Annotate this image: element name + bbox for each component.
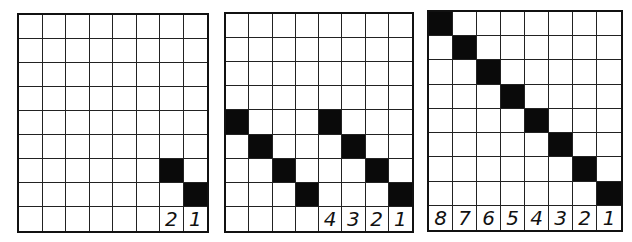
empty-cell xyxy=(573,182,597,206)
empty-cell xyxy=(389,62,412,86)
grid-panel-3: 87654321 xyxy=(427,10,623,232)
empty-cell xyxy=(43,159,67,183)
empty-cell xyxy=(296,135,319,159)
empty-cell xyxy=(273,86,296,110)
empty-cell xyxy=(366,62,389,86)
empty-cell xyxy=(113,15,137,39)
empty-cell xyxy=(501,36,525,60)
empty-cell xyxy=(429,157,453,181)
empty-cell xyxy=(501,157,525,181)
empty-cell xyxy=(226,38,249,62)
empty-cell xyxy=(90,15,114,39)
empty-cell xyxy=(226,86,249,110)
empty-cell xyxy=(525,157,549,181)
empty-cell xyxy=(319,62,342,86)
empty-cell xyxy=(597,157,621,181)
empty-cell xyxy=(453,157,477,181)
empty-cell xyxy=(160,15,184,39)
empty-cell xyxy=(429,182,453,206)
empty-cell xyxy=(597,60,621,84)
empty-cell xyxy=(342,38,365,62)
empty-cell xyxy=(137,39,161,63)
filled-cell xyxy=(342,135,365,159)
column-label: 6 xyxy=(477,206,501,230)
empty-cell xyxy=(113,39,137,63)
empty-cell xyxy=(273,135,296,159)
empty-cell xyxy=(342,183,365,207)
empty-cell xyxy=(477,85,501,109)
empty-cell xyxy=(90,111,114,135)
empty-cell xyxy=(319,183,342,207)
empty-cell xyxy=(184,15,208,39)
empty-cell xyxy=(549,85,573,109)
column-label xyxy=(273,207,296,231)
empty-cell xyxy=(43,135,67,159)
empty-cell xyxy=(429,109,453,133)
empty-cell xyxy=(19,183,43,207)
empty-cell xyxy=(549,36,573,60)
filled-cell xyxy=(501,85,525,109)
filled-cell xyxy=(549,133,573,157)
filled-cell xyxy=(429,12,453,36)
empty-cell xyxy=(43,183,67,207)
empty-cell xyxy=(525,60,549,84)
empty-cell xyxy=(525,85,549,109)
empty-cell xyxy=(549,182,573,206)
empty-cell xyxy=(19,159,43,183)
empty-cell xyxy=(477,157,501,181)
column-label xyxy=(113,207,137,231)
empty-cell xyxy=(226,159,249,183)
column-label: 2 xyxy=(366,207,389,231)
empty-cell xyxy=(160,111,184,135)
empty-cell xyxy=(137,159,161,183)
empty-cell xyxy=(43,63,67,87)
empty-cell xyxy=(342,62,365,86)
empty-cell xyxy=(113,63,137,87)
empty-cell xyxy=(366,183,389,207)
empty-cell xyxy=(66,39,90,63)
empty-cell xyxy=(249,159,272,183)
empty-cell xyxy=(549,109,573,133)
filled-cell xyxy=(597,182,621,206)
empty-cell xyxy=(525,12,549,36)
empty-cell xyxy=(477,182,501,206)
empty-cell xyxy=(113,183,137,207)
empty-cell xyxy=(366,38,389,62)
empty-cell xyxy=(453,182,477,206)
empty-cell xyxy=(573,133,597,157)
empty-cell xyxy=(113,87,137,111)
empty-cell xyxy=(319,14,342,38)
empty-cell xyxy=(19,15,43,39)
column-label xyxy=(43,207,67,231)
empty-cell xyxy=(477,12,501,36)
empty-cell xyxy=(184,87,208,111)
empty-cell xyxy=(453,12,477,36)
empty-cell xyxy=(137,87,161,111)
empty-cell xyxy=(429,60,453,84)
empty-cell xyxy=(137,15,161,39)
column-label: 4 xyxy=(319,207,342,231)
empty-cell xyxy=(573,109,597,133)
column-label xyxy=(66,207,90,231)
column-label xyxy=(226,207,249,231)
empty-cell xyxy=(597,12,621,36)
empty-cell xyxy=(389,86,412,110)
empty-cell xyxy=(226,14,249,38)
empty-cell xyxy=(477,133,501,157)
empty-cell xyxy=(296,38,319,62)
empty-cell xyxy=(90,63,114,87)
empty-cell xyxy=(319,159,342,183)
empty-cell xyxy=(66,111,90,135)
empty-cell xyxy=(342,110,365,134)
column-label: 3 xyxy=(342,207,365,231)
empty-cell xyxy=(66,87,90,111)
empty-cell xyxy=(525,133,549,157)
empty-cell xyxy=(477,109,501,133)
empty-cell xyxy=(453,109,477,133)
empty-cell xyxy=(525,182,549,206)
column-label: 7 xyxy=(453,206,477,230)
filled-cell xyxy=(273,159,296,183)
empty-cell xyxy=(160,39,184,63)
empty-cell xyxy=(453,85,477,109)
column-label: 4 xyxy=(525,206,549,230)
